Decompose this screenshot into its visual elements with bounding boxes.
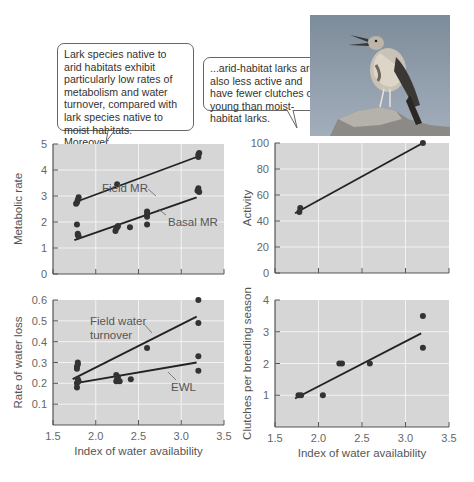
callout-right-tail [287, 110, 297, 128]
chart-activity: 020406080100Activity [241, 137, 449, 279]
x-tick-label: 2.5 [354, 432, 369, 444]
data-point [367, 361, 373, 367]
y-tick-label: 2 [41, 216, 47, 228]
y-axis-label: Rate of water loss [12, 316, 24, 408]
y-tick-label: 100 [251, 137, 269, 149]
y-tick-label: 0.2 [32, 377, 47, 389]
series-label: turnover [90, 329, 132, 341]
data-point [144, 209, 150, 215]
data-point [420, 140, 426, 146]
x-tick-label: 1.5 [267, 432, 282, 444]
x-tick-label: 3.5 [216, 430, 231, 442]
data-point [75, 360, 81, 366]
data-point [127, 224, 133, 230]
data-point [76, 194, 82, 200]
x-tick-label: 1.5 [45, 430, 60, 442]
y-axis-label: Metabolic rate [12, 173, 24, 245]
y-axis-label: Clutches per breeding season [241, 287, 253, 440]
chart-metabolic-rate: 012345Metabolic rateField MRBasal MR [12, 138, 224, 280]
series-label: EWL [171, 381, 197, 393]
data-point [195, 353, 201, 359]
y-tick-label: 20 [257, 241, 269, 253]
data-point [196, 150, 202, 156]
series-label: Field water [90, 315, 146, 327]
x-tick-label: 3.5 [441, 432, 456, 444]
y-tick-label: 0 [41, 268, 47, 280]
y-tick-label: 1 [263, 389, 269, 401]
chart-clutches: 12341.52.02.53.03.5Index of water availa… [241, 287, 457, 459]
data-point [144, 345, 150, 351]
data-point [115, 223, 121, 229]
y-tick-label: 0 [263, 267, 269, 279]
y-tick-label: 2 [263, 358, 269, 370]
data-point [297, 205, 303, 211]
data-point [420, 313, 426, 319]
data-point [144, 222, 150, 228]
y-tick-label: 0.6 [32, 294, 47, 306]
data-point [320, 392, 326, 398]
x-tick-label: 3.0 [398, 432, 413, 444]
x-tick-label: 2.0 [311, 432, 326, 444]
callout-left-tail [106, 131, 114, 142]
data-point [195, 297, 201, 303]
series-label: Field MR [102, 182, 148, 194]
y-tick-label: 0.5 [32, 315, 47, 327]
series-label: Basal MR [168, 216, 218, 228]
data-point [195, 320, 201, 326]
y-tick-label: 60 [257, 189, 269, 201]
y-tick-label: 3 [41, 190, 47, 202]
y-tick-label: 80 [257, 163, 269, 175]
chart-water-loss: 0.10.20.30.40.50.61.52.02.53.03.5Index o… [12, 294, 232, 457]
data-point [74, 222, 80, 228]
data-point [128, 376, 134, 382]
data-point [75, 232, 81, 238]
y-tick-label: 4 [263, 294, 269, 306]
data-point [117, 378, 123, 384]
y-axis-label: Activity [241, 190, 253, 227]
data-point [76, 378, 82, 384]
x-tick-label: 2.5 [131, 430, 146, 442]
charts-canvas: 012345Metabolic rateField MRBasal MR 020… [0, 0, 474, 482]
y-tick-label: 0.1 [32, 398, 47, 410]
y-tick-label: 0.3 [32, 357, 47, 369]
y-tick-label: 5 [41, 138, 47, 150]
y-tick-label: 4 [41, 164, 47, 176]
x-axis-label: Index of water availability [298, 447, 427, 459]
x-tick-label: 3.0 [174, 430, 189, 442]
x-axis-label: Index of water availability [74, 445, 203, 457]
y-tick-label: 1 [41, 242, 47, 254]
data-point [195, 368, 201, 374]
y-tick-label: 3 [263, 326, 269, 338]
data-point [196, 189, 202, 195]
x-tick-label: 2.0 [88, 430, 103, 442]
data-point [298, 392, 304, 398]
data-point [339, 361, 345, 367]
y-tick-label: 0.4 [32, 336, 47, 348]
data-point [113, 372, 119, 378]
y-tick-label: 40 [257, 215, 269, 227]
data-point [420, 345, 426, 351]
